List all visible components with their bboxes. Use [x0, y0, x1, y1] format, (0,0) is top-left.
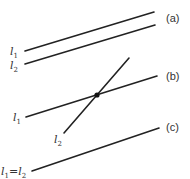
- case-label-b: (b): [166, 70, 179, 82]
- panel-b-intersecting: l1 l2 (b): [13, 58, 179, 148]
- label-l2-a: l2: [10, 59, 18, 74]
- line-l1-equals-l2: [32, 128, 159, 171]
- panel-c-coincident: l1=l2 (c): [1, 121, 179, 179]
- label-l1-a: l1: [10, 45, 18, 60]
- label-l2-b: l2: [54, 133, 62, 148]
- line-l1-b: [26, 76, 157, 117]
- label-l1-equals-l2: l1=l2: [1, 165, 26, 179]
- case-label-c: (c): [166, 121, 179, 133]
- panel-a-parallel: l1 l2 (a): [10, 12, 179, 74]
- case-label-a: (a): [166, 12, 179, 24]
- label-l1-b: l1: [13, 111, 21, 126]
- lines-diagram: l1 l2 (a) l1 l2 (b) l1=l2 (c): [0, 0, 190, 179]
- intersection-point: [94, 92, 99, 97]
